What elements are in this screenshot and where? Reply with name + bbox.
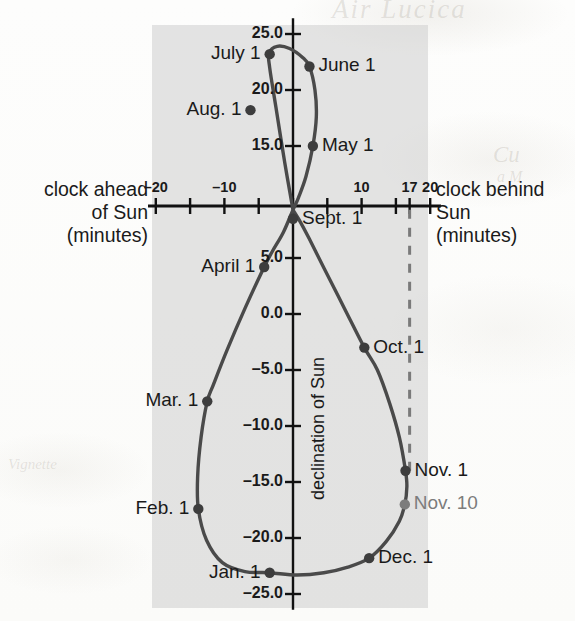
y-tick-label-15: 15.0 [252, 136, 283, 155]
point-label-june-1: June 1 [318, 54, 375, 76]
clock-behind-line-3: (minutes) [436, 224, 575, 247]
point-label-mar-1: Mar. 1 [145, 389, 198, 411]
point-label-oct-1: Oct. 1 [373, 336, 424, 358]
data-point-mar-1[interactable] [202, 396, 212, 406]
data-point-jan-1[interactable] [264, 568, 274, 578]
y-tick-label-neg25: –25.0 [243, 584, 283, 603]
data-point-feb-1[interactable] [193, 504, 203, 514]
analemma-curve-layer [197, 46, 407, 575]
point-label-nov-1: Nov. 1 [415, 459, 469, 481]
analemma-curve [197, 46, 407, 575]
y-tick-label-20: 20.0 [252, 80, 283, 99]
x-tick-label-20: 20 [422, 179, 438, 196]
y-tick-label-neg10: –10.0 [243, 416, 283, 435]
x-tick-label-17: 17 [402, 179, 418, 196]
data-point-may-1[interactable] [308, 141, 318, 151]
clock-behind-line-1: clock behind [436, 178, 575, 201]
y-tick-label-neg20: –20.0 [243, 528, 283, 547]
point-label-dec-1: Dec. 1 [378, 546, 433, 568]
data-point-nov-10[interactable] [400, 499, 410, 509]
data-point-dec-1[interactable] [364, 553, 374, 563]
y-tick-label-neg15: –15.0 [243, 472, 283, 491]
point-label-july-1: July 1 [211, 42, 261, 64]
point-label-april-1: April 1 [201, 255, 255, 277]
point-label-feb-1: Feb. 1 [135, 497, 189, 519]
point-label-sept-1: Sept. 1 [302, 207, 362, 229]
data-point-june-1[interactable] [304, 61, 314, 71]
point-label-aug-1: Aug. 1 [187, 98, 242, 120]
axis-caption-clock-ahead: clock aheadof Sun(minutes) [0, 178, 148, 247]
clock-ahead-line-1: clock ahead [0, 178, 148, 201]
data-point-oct-1[interactable] [359, 342, 369, 352]
axis-caption-clock-behind: clock behindSun(minutes) [436, 178, 575, 247]
analemma-plot [0, 0, 575, 621]
y-tick-label-0: 0.0 [261, 304, 283, 323]
data-point-aug-1[interactable] [245, 105, 255, 115]
x-tick-label-neg10: –10 [212, 179, 236, 196]
clock-behind-line-2: Sun [436, 201, 575, 224]
point-label-nov-10: Nov. 10 [414, 492, 478, 514]
point-label-may-1: May 1 [322, 134, 374, 156]
y-tick-label-5: 5.0 [261, 248, 283, 267]
y-tick-label-25: 25.0 [252, 24, 283, 43]
clock-ahead-line-2: of Sun [0, 201, 148, 224]
data-points-layer [193, 49, 411, 578]
point-label-jan-1: Jan. 1 [209, 561, 261, 583]
y-tick-label-neg5: –5.0 [252, 360, 283, 379]
data-point-sept-1[interactable] [288, 214, 298, 224]
x-tick-label-10: 10 [354, 179, 370, 196]
vertical-axis-title: declination of Sun [308, 357, 329, 500]
clock-ahead-line-3: (minutes) [0, 224, 148, 247]
data-point-nov-1[interactable] [400, 466, 410, 476]
data-point-july-1[interactable] [264, 49, 274, 59]
x-tick-label-neg20: –20 [144, 179, 168, 196]
